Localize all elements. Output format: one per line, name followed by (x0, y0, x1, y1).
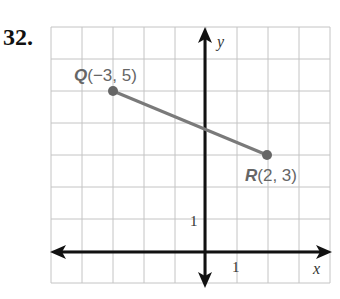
point-R (262, 150, 272, 160)
x-axis (50, 245, 332, 259)
coordinate-plane: y x 1 1 Q(−3, 5) R(2, 3) (0, 0, 340, 299)
x-tick-label: 1 (232, 259, 240, 275)
y-axis (198, 27, 212, 288)
y-axis-label: y (215, 33, 225, 51)
label-R: R(2, 3) (245, 166, 297, 185)
x-axis-label: x (312, 260, 320, 277)
label-Q: Q(−3, 5) (74, 66, 137, 85)
y-tick-label: 1 (190, 213, 198, 229)
point-Q (108, 86, 118, 96)
